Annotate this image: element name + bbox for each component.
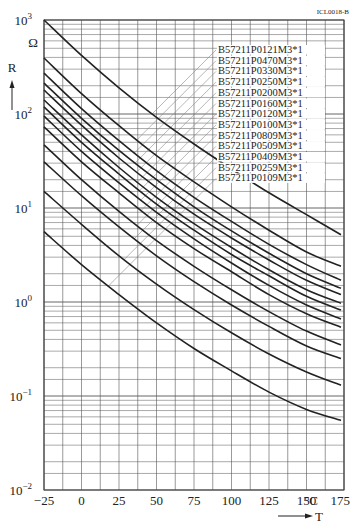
- legend-item: B57211P0160M3*1: [218, 98, 303, 109]
- legend-item: B57211P0200M3*1: [218, 87, 303, 98]
- legend-item: B57211P0509M3*1: [218, 140, 303, 151]
- y-tick-label: 100: [15, 293, 33, 310]
- y-tick-label: 103: [15, 11, 33, 28]
- y-tick-label: 101: [15, 199, 33, 216]
- curve-B57211P0259M3*1: [44, 191, 341, 385]
- x-tick-label: 50: [150, 493, 163, 508]
- legend-item: B57211P0109M3*1: [218, 172, 303, 183]
- x-tick-label: 25: [113, 493, 126, 508]
- legend-item: B57211P0100M3*1: [218, 119, 303, 130]
- y-axis-unit: Ω: [28, 35, 38, 50]
- y-axis-label: R: [8, 60, 17, 75]
- x-tick-label: 100: [222, 493, 242, 508]
- legend: B57211P0121M3*1B57211P0470M3*1B57211P033…: [217, 44, 325, 183]
- legend-item: B57211P0121M3*1: [218, 44, 303, 55]
- x-tick-label: 125: [259, 493, 279, 508]
- x-axis-ticks: −250255075100125150175: [34, 493, 350, 508]
- figure-code: ICL0018-B: [317, 8, 350, 16]
- legend-item: B57211P0259M3*1: [218, 162, 303, 173]
- y-tick-label: 102: [15, 105, 33, 122]
- x-axis-label: T: [315, 509, 323, 524]
- y-axis-arrow-icon: [10, 80, 15, 110]
- legend-item: B57211P0470M3*1: [218, 55, 303, 66]
- x-axis-arrow-icon: [278, 514, 313, 519]
- y-tick-label: 10−1: [9, 387, 32, 404]
- ntc-resistance-chart: 10−210−1100101102103 −250255075100125150…: [0, 0, 358, 524]
- y-tick-label: 10−2: [9, 481, 32, 498]
- x-tick-label: −25: [34, 493, 54, 508]
- legend-item: B57211P0330M3*1: [218, 65, 303, 76]
- x-tick-label: 75: [188, 493, 201, 508]
- x-tick-label: 175: [331, 493, 351, 508]
- legend-item: B57211P0809M3*1: [218, 130, 303, 141]
- x-tick-label: 0: [78, 493, 85, 508]
- legend-item: B57211P0120M3*1: [218, 108, 303, 119]
- legend-item: B57211P0409M3*1: [218, 151, 303, 162]
- legend-item: B57211P0250M3*1: [218, 76, 303, 87]
- x-axis-unit: °C: [304, 493, 318, 508]
